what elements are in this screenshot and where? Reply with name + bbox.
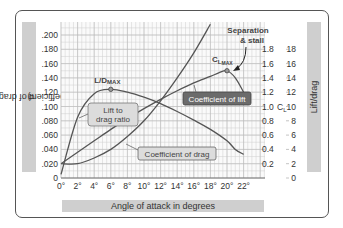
cl-max-marker xyxy=(225,69,229,73)
x-tick: 0° xyxy=(57,181,65,191)
y-left-tick: .200 xyxy=(41,30,58,40)
callout-coefficient-drag-text: Coefficient of drag xyxy=(145,150,210,159)
x-tick: 14° xyxy=(171,181,184,191)
x-tick: 2° xyxy=(74,181,82,191)
y-ld-tick: 6 xyxy=(291,130,296,140)
y-left-tick: .100 xyxy=(41,102,58,112)
y-cl-tick: 0.6 xyxy=(262,130,274,140)
callout-coefficient-lift-text: Coefficient of lift xyxy=(189,95,247,104)
y-left-tick: .180 xyxy=(41,44,58,54)
y-left-tick: .060 xyxy=(41,130,58,140)
y-left-tick: .120 xyxy=(41,87,58,97)
y-left-tick: .080 xyxy=(41,116,58,126)
y-left-tick: .160 xyxy=(41,59,58,69)
y-left-tick: .020 xyxy=(41,159,58,169)
chart-plot: 0.020.040.060.080.100.120.140.160.180.20… xyxy=(0,0,343,228)
y-ld-tick: 4 xyxy=(291,144,296,154)
y-cl-tick: 1.4 xyxy=(262,73,274,83)
x-tick: 4° xyxy=(90,181,98,191)
callout-lift-drag-line1: Lift to xyxy=(103,106,123,115)
y-cl-tick: 1.0 xyxy=(262,102,274,112)
y-cl-tick: 0.4 xyxy=(262,144,274,154)
x-tick: 12° xyxy=(154,181,167,191)
x-tick: 16° xyxy=(187,181,200,191)
x-tick: 20° xyxy=(221,181,234,191)
separation-label: Separation xyxy=(227,26,268,35)
y-ld-tick: 8 xyxy=(291,116,296,126)
stall-label: & stall xyxy=(240,36,264,45)
x-tick: 8° xyxy=(123,181,131,191)
callout-lift-drag-line2: drag ratio xyxy=(96,115,130,124)
x-tick: 22° xyxy=(237,181,250,191)
y-cl-tick: 0.2 xyxy=(262,159,274,169)
y-left-tick: .040 xyxy=(41,144,58,154)
y-left-tick: .140 xyxy=(41,73,58,83)
y-ld-tick: 0 xyxy=(291,173,296,183)
x-tick: 6° xyxy=(107,181,115,191)
y-cl-tick: 1.6 xyxy=(262,59,274,69)
x-tick: 18° xyxy=(204,181,217,191)
y-cl-tick: 1.8 xyxy=(262,44,274,54)
x-tick: 10° xyxy=(138,181,151,191)
y-cl-tick: 1.2 xyxy=(262,87,274,97)
ld-max-marker xyxy=(109,87,113,91)
y-ld-tick: 2 xyxy=(291,159,296,169)
y-cl-tick: 0.8 xyxy=(262,116,274,126)
